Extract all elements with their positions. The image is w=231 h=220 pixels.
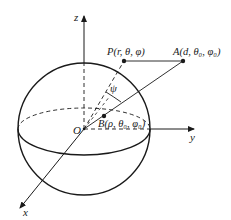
spherical-coordinates-diagram: z y x O P(r, θ, φ) A(d, θ₀, φ₀) B(ρ, θ₀,… xyxy=(0,0,231,220)
z-axis-label: z xyxy=(73,11,79,23)
y-axis-label: y xyxy=(189,131,195,143)
origin-label: O xyxy=(73,124,81,136)
point-p-label: P(r, θ, φ) xyxy=(106,46,145,58)
x-axis-label: x xyxy=(22,206,28,218)
angle-psi-label: ψ xyxy=(110,82,117,94)
point-a xyxy=(181,59,185,63)
point-p xyxy=(122,59,126,63)
point-b-label: B(ρ, θ₀, φ₀) xyxy=(98,118,146,130)
x-axis xyxy=(20,129,84,208)
equator-front xyxy=(18,129,150,155)
point-origin xyxy=(83,128,86,131)
point-a-label: A(d, θ₀, φ₀) xyxy=(172,46,221,58)
